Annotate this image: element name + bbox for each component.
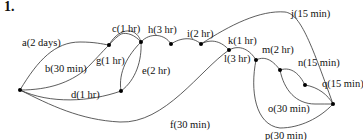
edge-label-j: j(15 min) <box>290 8 331 20</box>
node-4 <box>169 42 173 46</box>
edge-c2 <box>121 33 141 42</box>
edge-label-q: q(15 min) <box>322 78 363 90</box>
edge-g <box>109 34 121 45</box>
edge-label-a: a(2 days) <box>22 37 61 49</box>
edge-label-h: h(3 hr) <box>148 24 177 36</box>
edge-label-c: c(1 hr) <box>112 23 141 35</box>
node-3 <box>119 89 123 93</box>
edge-label-l: l(3 hr) <box>224 53 251 65</box>
edge-label-d: d(1 hr) <box>71 89 100 101</box>
node-start <box>18 88 22 92</box>
edge-label-i: i(2 hr) <box>187 28 214 40</box>
node-8 <box>278 68 282 72</box>
edge-label-b: b(30 min) <box>45 63 87 75</box>
edge-m <box>256 58 280 70</box>
edge-label-e: e(2 hr) <box>142 65 171 77</box>
edge-label-n: n(15 min) <box>298 57 340 69</box>
edge-label-f: f(30 min) <box>170 119 210 131</box>
node-7 <box>254 58 258 62</box>
edge-label-k: k(1 hr) <box>228 35 257 47</box>
edge-label-o: o(30 min) <box>268 103 310 115</box>
edge-p <box>254 60 333 128</box>
edge-i <box>171 39 201 44</box>
edge-label-g: g(1 hr) <box>96 55 125 67</box>
node-5 <box>199 42 203 46</box>
node-9 <box>303 83 307 87</box>
edge-label-m: m(2 hr) <box>262 44 294 56</box>
edge-k <box>201 41 229 50</box>
node-1 <box>107 43 111 47</box>
edge-label-p: p(30 min) <box>265 130 307 140</box>
node-end <box>331 102 335 106</box>
node-2 <box>139 40 143 44</box>
node-6 <box>227 48 231 52</box>
edge-h <box>141 35 171 44</box>
activity-network-diagram: a(2 days) b(30 min) c(1 hr) d(1 hr) e(2 … <box>0 0 363 140</box>
